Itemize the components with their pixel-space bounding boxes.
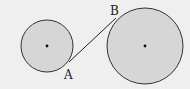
label-b: B bbox=[110, 4, 119, 18]
label-a: A bbox=[63, 68, 73, 82]
small-circle-center bbox=[46, 45, 49, 48]
large-circle-center bbox=[144, 45, 147, 48]
two-circles-tangent-diagram: A B bbox=[0, 0, 190, 89]
